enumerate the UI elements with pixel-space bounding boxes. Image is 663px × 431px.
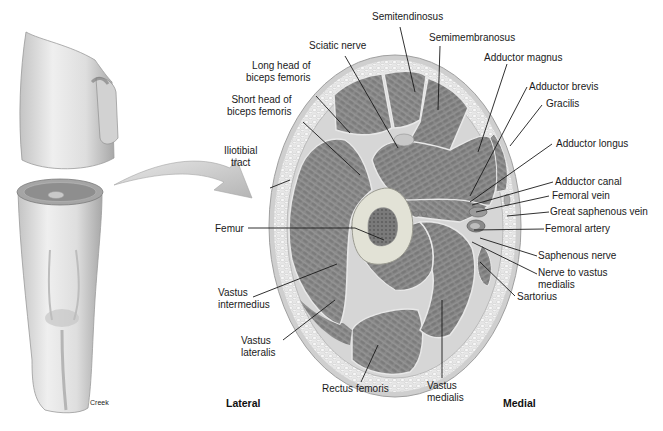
label-semitendinosus: Semitendinosus <box>372 11 443 23</box>
orientation-lateral: Lateral <box>226 397 260 409</box>
label-adductor-magnus: Adductor magnus <box>484 52 562 64</box>
artist-credit: Creek <box>90 399 109 406</box>
label-adductor-canal: Adductor canal <box>555 176 622 188</box>
orientation-medial: Medial <box>503 397 536 409</box>
label-long-head-biceps-femoris: Long head of biceps femoris <box>246 60 310 83</box>
label-sartorius: Sartorius <box>517 291 557 303</box>
upper-thigh-illustration <box>20 32 118 169</box>
cross-section <box>269 55 521 397</box>
label-gracilis: Gracilis <box>546 98 579 110</box>
label-nerve-to-vastus-medialis: Nerve to vastus medialis <box>538 267 607 290</box>
label-vastus-medialis: Vastus medialis <box>427 380 464 403</box>
label-saphenous-nerve: Saphenous nerve <box>538 250 616 262</box>
label-femoral-vein: Femoral vein <box>552 190 610 202</box>
label-adductor-longus: Adductor longus <box>556 138 628 150</box>
label-adductor-brevis: Adductor brevis <box>529 81 598 93</box>
label-sciatic-nerve: Sciatic nerve <box>309 40 366 52</box>
label-vastus-lateralis: Vastus lateralis <box>241 335 275 358</box>
label-femur: Femur <box>215 223 244 235</box>
lower-leg-illustration <box>17 179 103 413</box>
label-short-head-biceps-femoris: Short head of biceps femoris <box>227 94 291 117</box>
thigh-cross-section-figure: Semitendinosus Sciatic nerve Semimembran… <box>0 0 663 431</box>
label-semimembranosus: Semimembranosus <box>429 32 515 44</box>
label-rectus-femoris: Rectus femoris <box>322 383 389 395</box>
label-femoral-artery: Femoral artery <box>545 223 610 235</box>
label-vastus-intermedius: Vastus intermedius <box>218 287 270 310</box>
label-great-saphenous-vein: Great saphenous vein <box>550 206 648 218</box>
label-iliotibial-tract: Iliotibial tract <box>224 145 257 168</box>
